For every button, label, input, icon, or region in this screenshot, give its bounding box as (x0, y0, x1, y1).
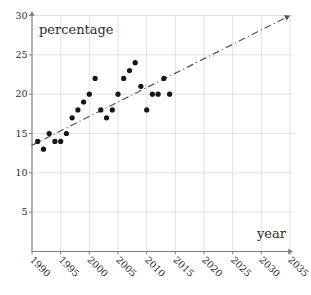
y-tick-label: 20 (15, 88, 27, 99)
data-point (47, 131, 52, 136)
data-point (138, 84, 143, 89)
x-tick: 2020 (200, 254, 225, 279)
data-point (81, 99, 86, 104)
y-tick-label: 25 (15, 49, 27, 60)
scatter-plot-figure: 1990199520002005201020152020202520302035… (0, 0, 311, 295)
x-tick: 2015 (171, 254, 196, 279)
data-point (64, 131, 69, 136)
data-point (70, 115, 75, 120)
x-tick: 2005 (114, 254, 139, 279)
x-tick-label: 2030 (257, 254, 282, 279)
data-point (133, 60, 138, 65)
x-tick-label: 2035 (286, 254, 311, 279)
data-point (144, 107, 149, 112)
x-tick: 1990 (28, 254, 53, 279)
x-tick-label: 1995 (57, 254, 82, 279)
x-tick: 2000 (85, 254, 110, 279)
data-point (121, 76, 126, 81)
data-point (98, 107, 103, 112)
data-point (87, 92, 92, 97)
data-point (41, 147, 46, 152)
x-tick-label: 2005 (114, 254, 139, 279)
data-point (161, 76, 166, 81)
data-point (93, 76, 98, 81)
trend-arrow-icon (284, 15, 290, 20)
x-tick: 2010 (143, 254, 168, 279)
data-point (115, 92, 120, 97)
x-tick: 1995 (57, 254, 82, 279)
y-tick-label: 10 (15, 167, 27, 178)
x-tick: 2030 (257, 254, 282, 279)
data-point (104, 115, 109, 120)
data-point (75, 107, 80, 112)
x-axis-arrow-icon (288, 249, 293, 254)
data-point (150, 92, 155, 97)
y-tick-label: 30 (15, 10, 27, 21)
x-tick-label: 2010 (143, 254, 168, 279)
y-tick-label: 5 (21, 206, 27, 217)
x-tick-label: 2015 (171, 254, 196, 279)
data-point (156, 92, 161, 97)
x-tick: 2025 (229, 254, 254, 279)
x-tick-label: 2020 (200, 254, 225, 279)
x-tick-label: 2025 (229, 254, 254, 279)
x-tick-label: 1990 (28, 254, 53, 279)
x-tick: 2035 (286, 254, 311, 279)
x-axis-title: year (256, 226, 287, 241)
data-point (127, 68, 132, 73)
data-point (52, 139, 57, 144)
data-point (110, 107, 115, 112)
y-tick-label: 15 (15, 128, 27, 139)
x-tick-label: 2000 (85, 254, 110, 279)
scatter-chart: 1990199520002005201020152020202520302035… (0, 0, 311, 295)
data-point (58, 139, 63, 144)
y-axis-title: percentage (39, 22, 114, 37)
data-point (167, 92, 172, 97)
data-point (35, 139, 40, 144)
